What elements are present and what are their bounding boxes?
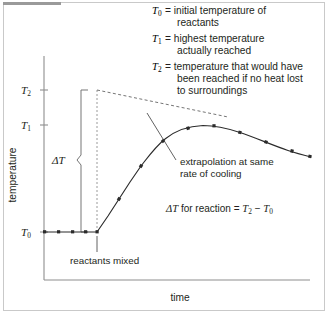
y-tick-label-T2: T2 [21,84,31,98]
reactants-mixed-label: reactants mixed [70,255,139,266]
equation-delta-symbol: ΔT [165,203,179,214]
legend-text-T1: = highest temperature [165,33,265,44]
legend-symbol-T1: T1 [152,33,162,46]
legend-symbol-T0-subscript: 0 [158,9,162,18]
legend-symbol-T1-subscript: 1 [158,37,162,46]
y-axis-title: temperature [7,147,18,202]
delta-t-brace: ΔT [51,90,88,232]
equation-mid-text: for reaction = [178,203,242,214]
legend-text-T2: = temperature that would have [165,61,303,72]
data-point [238,130,242,134]
measured-temperature-series [43,124,312,233]
extrapolation-annotation-line2: rate of cooling [180,168,242,179]
legend-entry-T1: T1 = highest temperature actually reache… [152,33,265,56]
data-point [96,230,99,233]
equation-t0-subscript: 0 [269,207,273,216]
legend-text-T0-cont: reactants [177,17,219,28]
extrapolation-annotation-line1: extrapolation at same [180,156,274,167]
delta-t-label: ΔT [51,154,66,166]
y-tick-label-T0: T0 [21,226,31,240]
legend-entry-T0: T0 = initial temperature of reactants [152,5,266,28]
x-axis-title: time [170,292,190,303]
legend-entry-T2: T2 = temperature that would have been re… [152,61,303,96]
extrapolation-annotation: extrapolation at same rate of cooling [147,113,274,179]
data-point [71,230,74,233]
legend-symbol-T0: T0 [152,5,162,18]
data-point [84,230,87,233]
legend-text-T2-cont: been reached if no heat lost [177,73,303,84]
reactants-mixed-annotation: reactants mixed [70,236,139,266]
temperature-time-chart: T0 = initial temperature of reactants T1… [0,0,328,314]
data-point-markers [43,124,312,233]
data-point [43,230,46,233]
legend-text-T2-cont2: to surroundings [177,85,247,96]
delta-t-equation: ΔT for reaction = T2 − T0 [165,203,273,216]
y-tick-label-T2-subscript: 2 [27,89,31,98]
y-tick-labels: T2 T1 T0 [21,84,31,240]
delta-t-equation-text: ΔT for reaction = T2 − T0 [165,203,273,216]
equation-minus: − [252,203,263,214]
legend-symbol-T2-subscript: 2 [158,65,162,74]
legend-symbol-T2: T2 [152,61,162,74]
legend-text-T0: = initial temperature of [165,5,266,16]
legend-block: T0 = initial temperature of reactants T1… [152,5,303,96]
axes-group [40,56,310,280]
data-point [57,230,60,233]
y-tick-label-T1-subscript: 1 [27,124,31,133]
y-tick-label-T0-subscript: 0 [27,231,31,240]
legend-text-T1-cont: actually reached [177,45,252,56]
data-point [212,124,215,127]
data-point [308,154,312,158]
figure-container: T0 = initial temperature of reactants T1… [0,0,328,314]
y-tick-label-T1: T1 [21,119,31,133]
